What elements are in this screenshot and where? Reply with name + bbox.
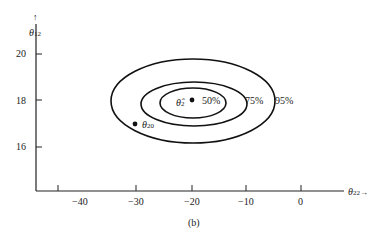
y-tick-label: 20 [16,49,26,59]
point-theta-hat-2 [190,98,195,103]
theta-20-sub: 20 [147,122,154,130]
contour-label-50: 50% [202,96,220,106]
y-tick-label: 18 [16,96,26,106]
contour-label-75: 75% [245,96,263,106]
x-tick-label: 0 [298,197,303,207]
contour-label-95: 95% [275,96,293,106]
y-axis-label: θ12 [29,28,41,39]
x-axis-label-sub: 22 [353,189,360,197]
theta-20-label: θ20 [142,120,154,131]
y-axis-arrow-icon: ↑ [33,12,38,22]
x-tick-label: −10 [238,197,254,207]
theta-hat-label: θ̂2 [176,98,184,109]
x-tick-label: −30 [128,197,144,207]
theta-hat-sub: 2 [181,100,185,108]
figure-caption: (b) [188,218,200,228]
x-tick-label: −40 [72,197,88,207]
x-axis-arrow-icon: → [360,188,368,197]
point-theta-20 [133,122,138,127]
y-tick-label: 16 [16,142,26,152]
x-tick-label: −20 [184,197,200,207]
y-axis-label-sub: 12 [34,30,41,38]
x-axis-label: θ22→ [348,187,368,198]
